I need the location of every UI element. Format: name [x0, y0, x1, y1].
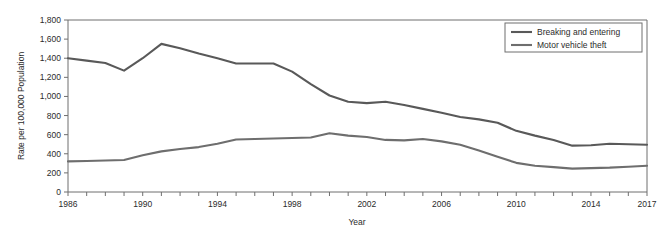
y-tick-label: 1,000: [40, 91, 62, 101]
y-tick-label: 600: [47, 130, 61, 140]
y-tick-label: 1,600: [40, 34, 62, 44]
x-tick-label: 1990: [133, 199, 152, 209]
x-tick-label: 2014: [582, 199, 601, 209]
y-tick-label: 1,800: [40, 15, 62, 25]
y-tick-label: 800: [47, 111, 61, 121]
y-tick-label: 200: [47, 168, 61, 178]
x-tick-label: 1998: [283, 199, 302, 209]
x-tick-label: 1986: [59, 199, 78, 209]
y-tick-label: 1,200: [40, 72, 62, 82]
legend-label-motor-vehicle-theft: Motor vehicle theft: [537, 40, 607, 50]
line-chart: 02004006008001,0001,2001,4001,6001,800 1…: [0, 0, 663, 233]
x-tick-label: 2006: [432, 199, 451, 209]
y-tick-label: 0: [56, 187, 61, 197]
x-tick-label: 2010: [507, 199, 526, 209]
chart-canvas: 02004006008001,0001,2001,4001,6001,800 1…: [0, 0, 663, 233]
chart-legend: Breaking and entering Motor vehicle thef…: [505, 23, 642, 52]
legend-label-breaking-and-entering: Breaking and entering: [537, 27, 620, 37]
y-tick-label: 400: [47, 149, 61, 159]
x-tick-label: 1994: [208, 199, 227, 209]
y-tick-label: 1,400: [40, 53, 62, 63]
y-axis-title: Rate per 100,000 Population: [16, 52, 26, 160]
x-tick-label: 2017: [638, 199, 657, 209]
x-tick-label: 2002: [357, 199, 376, 209]
x-axis-title: Year: [348, 217, 365, 227]
